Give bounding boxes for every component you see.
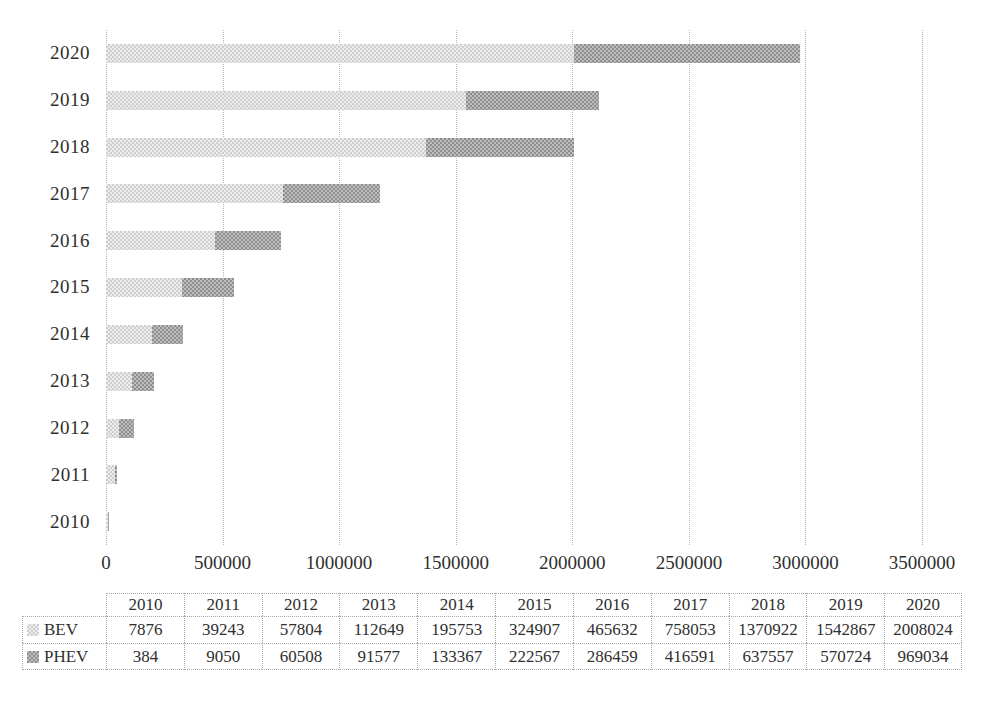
table-header-year: 2013	[339, 593, 417, 616]
table-header-year: 2010	[106, 593, 184, 616]
gridline	[805, 30, 806, 545]
x-axis-tick-label: 1000000	[306, 552, 373, 574]
table-series-label-bev: BEV	[22, 616, 106, 643]
x-axis-tick-label: 2000000	[539, 552, 606, 574]
bar-segment-phev-2019	[466, 91, 599, 110]
table-value-cell: 222567	[495, 643, 573, 670]
bar-segment-bev-2014	[106, 325, 152, 344]
table-value-cell: 465632	[573, 616, 651, 643]
y-axis-category-label: 2018	[0, 124, 90, 171]
y-axis-category-label: 2012	[0, 405, 90, 452]
bar-segment-bev-2018	[106, 138, 426, 157]
y-axis-category-label: 2014	[0, 311, 90, 358]
table-header-year: 2019	[806, 593, 884, 616]
table-value-cell: 133367	[417, 643, 495, 670]
y-axis-category-label: 2016	[0, 217, 90, 264]
bar-segment-bev-2020	[106, 44, 574, 63]
table-header-year: 2020	[884, 593, 962, 616]
table-value-cell: 286459	[573, 643, 651, 670]
series-name: BEV	[44, 620, 78, 640]
chart-page: 2020201920182017201620152014201320122011…	[0, 0, 982, 713]
series-name: PHEV	[44, 647, 88, 667]
y-axis-category-label: 2020	[0, 30, 90, 77]
x-axis-tick-label: 1500000	[422, 552, 489, 574]
bar-segment-bev-2013	[106, 372, 132, 391]
y-axis-category-label: 2010	[0, 498, 90, 545]
bar-segment-phev-2011	[115, 465, 117, 484]
bar-segment-phev-2014	[152, 325, 183, 344]
bar-segment-phev-2017	[283, 184, 380, 203]
bar-segment-bev-2019	[106, 91, 466, 110]
plot-area	[106, 30, 922, 545]
table-series-label-phev: PHEV	[22, 643, 106, 670]
y-axis-category-label: 2011	[0, 451, 90, 498]
table-header-year: 2012	[262, 593, 340, 616]
x-axis-tick-label: 500000	[194, 552, 251, 574]
table-header-year: 2018	[729, 593, 807, 616]
y-axis-category-label: 2013	[0, 358, 90, 405]
bar-segment-bev-2015	[106, 278, 182, 297]
table-value-cell: 39243	[184, 616, 262, 643]
x-axis: 0500000100000015000002000000250000030000…	[106, 552, 922, 576]
legend-key-phev	[27, 651, 39, 663]
bar-segment-bev-2012	[106, 419, 119, 438]
y-axis: 2020201920182017201620152014201320122011…	[0, 30, 90, 545]
table-header-year: 2016	[573, 593, 651, 616]
bar-segment-phev-2018	[426, 138, 575, 157]
bar-segment-bev-2016	[106, 231, 215, 250]
table-value-cell: 969034	[884, 643, 962, 670]
table-value-cell: 2008024	[884, 616, 962, 643]
bar-segment-phev-2016	[215, 231, 282, 250]
table-value-cell: 416591	[651, 643, 729, 670]
y-axis-category-label: 2017	[0, 171, 90, 218]
table-value-cell: 195753	[417, 616, 495, 643]
table-header-year: 2014	[417, 593, 495, 616]
table-corner-cell	[22, 593, 106, 616]
data-table: 2010201120122013201420152016201720182019…	[22, 593, 962, 670]
bar-segment-bev-2017	[106, 184, 283, 203]
bar-segment-phev-2015	[182, 278, 234, 297]
table-header-year: 2015	[495, 593, 573, 616]
x-axis-tick-label: 2500000	[656, 552, 723, 574]
table-value-cell: 384	[106, 643, 184, 670]
table-value-cell: 9050	[184, 643, 262, 670]
table-header-year: 2011	[184, 593, 262, 616]
table-value-cell: 7876	[106, 616, 184, 643]
x-axis-tick-label: 0	[101, 552, 111, 574]
table-value-cell: 112649	[339, 616, 417, 643]
x-axis-tick-label: 3000000	[772, 552, 839, 574]
table-value-cell: 1542867	[806, 616, 884, 643]
table-value-cell: 60508	[262, 643, 340, 670]
bar-segment-phev-2020	[574, 44, 800, 63]
table-value-cell: 1370922	[729, 616, 807, 643]
bar-segment-bev-2011	[106, 465, 115, 484]
y-axis-category-label: 2015	[0, 264, 90, 311]
table-value-cell: 91577	[339, 643, 417, 670]
y-axis-category-label: 2019	[0, 77, 90, 124]
gridline	[689, 30, 690, 545]
table-value-cell: 570724	[806, 643, 884, 670]
x-axis-tick-label: 3500000	[889, 552, 956, 574]
table-value-cell: 637557	[729, 643, 807, 670]
gridline	[922, 30, 923, 545]
table-value-cell: 57804	[262, 616, 340, 643]
bar-segment-phev-2012	[119, 419, 133, 438]
table-value-cell: 324907	[495, 616, 573, 643]
legend-key-bev	[27, 624, 39, 636]
table-value-cell: 758053	[651, 616, 729, 643]
table-header-year: 2017	[651, 593, 729, 616]
bar-segment-phev-2013	[132, 372, 153, 391]
